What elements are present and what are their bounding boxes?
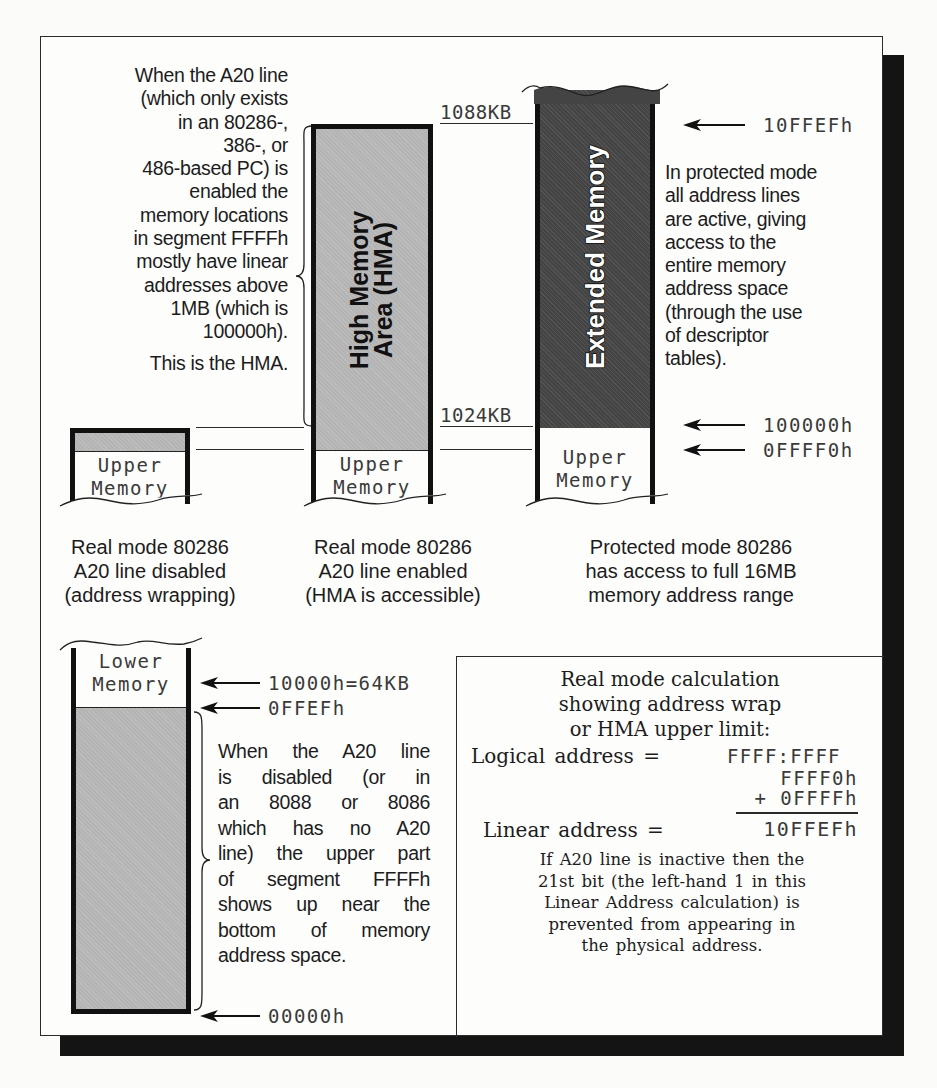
note-line: access to the: [665, 231, 875, 254]
col3-extended-region: Extended Memory: [540, 90, 650, 428]
label-line: Area (HMA): [371, 134, 395, 446]
note-line: an 8088 or 8086: [218, 790, 430, 816]
note-line: of segment FFFFh: [218, 867, 430, 893]
caption-line: A20 line enabled: [293, 559, 493, 583]
left-arrow-icon: [683, 118, 745, 132]
hma-note-line: 386-, or: [60, 134, 288, 157]
connector-line-col2-col3: [440, 449, 532, 450]
address-marker-0ffefh: 0FFEFh: [200, 697, 346, 719]
note-line: of descriptor: [665, 324, 875, 347]
protected-mode-note: In protected mode all address lines are …: [665, 161, 875, 371]
hma-note-line: in an 80286-,: [60, 111, 288, 134]
logical-address-value: FFFF:FFFF: [727, 745, 841, 767]
left-arrow-icon: [683, 443, 745, 457]
address-marker-top: 10FFEFh: [683, 114, 854, 136]
hma-note-line: 486-based PC) is: [60, 157, 288, 180]
hma-note-line: addresses above: [60, 274, 288, 297]
title-line: Real mode calculation: [460, 667, 880, 692]
address-marker-64kb: 10000h=64KB: [200, 672, 410, 694]
note-line: If A20 line is inactive then the: [460, 849, 884, 871]
caption-line: memory address range: [566, 583, 816, 607]
hma-note-line: 100000h).: [60, 320, 288, 343]
address-marker-00000h: 00000h: [200, 1005, 346, 1027]
hma-note-line: 1MB (which is: [60, 297, 288, 320]
caption-line: A20 line disabled: [50, 559, 250, 583]
col2-hma-region: High Memory Area (HMA): [316, 129, 428, 451]
note-line: are active, giving: [665, 208, 875, 231]
col2-memory-column: High Memory Area (HMA) Upper Memory: [311, 124, 433, 504]
label-line: Upper: [316, 453, 428, 476]
title-line: or HMA upper limit:: [460, 717, 880, 742]
label-line: Memory: [76, 673, 186, 696]
note-line: address space.: [218, 943, 430, 969]
logical-address-label: Logical address =: [471, 743, 660, 769]
col3-wavy-bottom-icon: [524, 492, 670, 510]
wrap-note: When the A20 line is disabled (or in an …: [218, 739, 430, 969]
calc-note: If A20 line is inactive then the 21st bi…: [460, 849, 884, 957]
note-line: prevented from appearing in: [460, 914, 884, 936]
hma-note-line: When the A20 line: [60, 64, 288, 87]
note-line: address space: [665, 277, 875, 300]
left-arrow-icon: [683, 418, 745, 432]
linear-address-label: Linear address =: [483, 817, 664, 843]
col1-caption: Real mode 80286 A20 line disabled (addre…: [50, 535, 250, 607]
marker-1024kb: 1024KB: [440, 404, 533, 427]
linear-address-value: 10FFEFh: [700, 817, 858, 841]
note-line: bottom of memory: [218, 918, 430, 944]
col2-caption: Real mode 80286 A20 line enabled (HMA is…: [293, 535, 493, 607]
label-line: Upper: [540, 446, 650, 469]
address-marker-low: 0FFFF0h: [683, 439, 854, 461]
note-line: When the A20 line: [218, 739, 430, 765]
col3-memory-column: Extended Memory Upper Memory: [535, 90, 655, 504]
note-line: entire memory: [665, 254, 875, 277]
label-line: High Memory: [347, 134, 371, 446]
connector-line-upper: [196, 449, 304, 450]
hma-note-conclusion: This is the HMA.: [60, 352, 288, 375]
note-line: 21st bit (the left-hand 1 in this: [460, 871, 884, 893]
hma-note-line: memory locations: [60, 204, 288, 227]
note-line: which has no A20: [218, 816, 430, 842]
addend-0ffffh: + 0FFFFh: [700, 787, 858, 809]
extended-region-label: Extended Memory: [578, 102, 612, 412]
note-line: is disabled (or in: [218, 765, 430, 791]
hma-region-label: High Memory Area (HMA): [347, 134, 397, 446]
address-00000h: 00000h: [268, 1005, 346, 1027]
lower-memory-column: Lower Memory: [71, 648, 191, 1014]
caption-line: (HMA is accessible): [293, 583, 493, 607]
lower-memory-label: Lower Memory: [76, 648, 186, 708]
col3-upper-memory-label: Upper Memory: [540, 428, 650, 492]
address-0ffff0h: 0FFFF0h: [763, 439, 854, 461]
label-line: Upper: [75, 454, 185, 477]
frame-shadow-right: [883, 55, 904, 1056]
note-line: In protected mode: [665, 161, 875, 184]
hma-note-line: enabled the: [60, 180, 288, 203]
calc-title: Real mode calculation showing address wr…: [460, 667, 880, 742]
address-100000h: 100000h: [763, 414, 854, 436]
addend-ffff0h: FFFF0h: [700, 767, 858, 789]
col1-wavy-bottom-icon: [58, 492, 204, 510]
note-line: tables).: [665, 347, 875, 370]
note-line: shows up near the: [218, 892, 430, 918]
title-line: showing address wrap: [460, 692, 880, 717]
hma-note-line: in segment FFFFh: [60, 227, 288, 250]
marker-1088kb: 1088KB: [440, 101, 533, 124]
note-line: all address lines: [665, 184, 875, 207]
note-line: (through the use: [665, 301, 875, 324]
address-marker-mid: 100000h: [683, 414, 854, 436]
col1-wrapped-region: [75, 433, 185, 452]
col2-wavy-bottom-icon: [302, 492, 448, 510]
hma-note-line: (which only exists: [60, 87, 288, 110]
col3-wavy-top-icon: [520, 82, 670, 104]
hma-note-line: mostly have linear: [60, 250, 288, 273]
caption-line: (address wrapping): [50, 583, 250, 607]
col3-caption: Protected mode 80286 has access to full …: [566, 535, 816, 607]
caption-line: has access to full 16MB: [566, 559, 816, 583]
frame-shadow-bottom: [60, 1036, 904, 1056]
address-0ffefh: 0FFEFh: [268, 697, 346, 719]
address-10ffefh: 10FFEFh: [763, 114, 854, 136]
lower-memory-wavy-top-icon: [58, 636, 204, 654]
caption-line: Real mode 80286: [50, 535, 250, 559]
address-10000h: 10000h=64KB: [268, 672, 410, 694]
wrapped-segment-region: [76, 708, 186, 1009]
note-line: line) the upper part: [218, 841, 430, 867]
